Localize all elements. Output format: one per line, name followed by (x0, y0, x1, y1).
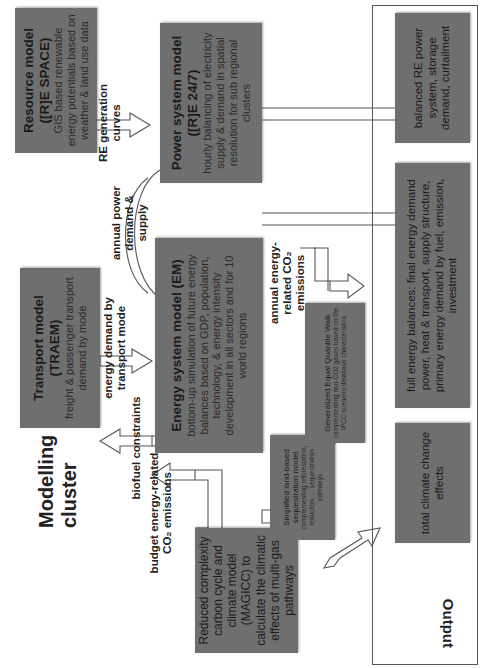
output-energy-balances-box: full energy balances: final energy deman… (395, 163, 470, 408)
magicc-model-box: Reduced complexity carbon cycle and clim… (195, 528, 298, 653)
transport-model-box: Transport model (TRAEM) freight & passen… (20, 268, 100, 428)
label-energy-demand-transport: energy demand by transport mode (102, 283, 128, 413)
modelling-cluster-diagram: Modelling cluster Output Resource model … (0, 0, 481, 668)
arrow-em-to-balances (275, 48, 300, 216)
power-system-model-title: Power system model ([R]E 24/7) (169, 27, 201, 179)
power-system-model-desc: hourly balancing of electricity supply &… (201, 27, 253, 179)
label-annual-power: annual power demand & supply (110, 178, 150, 268)
energy-system-model-box: Energy system model (EM) bottom-up simul… (155, 238, 263, 453)
transport-model-desc: freight & passenger transport demand by … (63, 272, 89, 424)
quantile-walk-model-box: Generalized Equal Quantile Walk compleme… (305, 303, 365, 443)
output-energy-balances-text: full energy balances: final energy deman… (405, 167, 459, 404)
land-sequestration-model-desc: complementing reforestation, reduction, … (300, 439, 323, 536)
arrow-annual-co2 (330, 274, 364, 298)
quantile-walk-model-desc: complementing non-CO2 gases based on the… (332, 307, 347, 439)
land-sequestration-model-box: Simplified land-based sequestration mode… (270, 435, 335, 540)
output-balanced-re-box: balanced RE power system, storage demand… (395, 13, 470, 143)
arrow-biofuel (100, 429, 152, 453)
energy-system-model-title: Energy system model (EM) (169, 259, 185, 432)
output-balanced-re-text: balanced RE power system, storage demand… (412, 17, 453, 139)
quantile-walk-model-title: Generalized Equal Quantile Walk (323, 314, 332, 432)
magicc-model-desc: Reduced complexity carbon cycle and clim… (197, 532, 296, 649)
power-system-model-box: Power system model ([R]E 24/7) hourly ba… (160, 23, 262, 183)
label-re-generation-curves: RE generation curves (97, 68, 123, 178)
label-annual-co2: annual energy-related CO₂ emissions (268, 228, 308, 338)
land-sequestration-model-title: Simplified land-based sequestration mode… (282, 439, 301, 536)
energy-system-model-desc: bottom-up simulation of future energy ba… (185, 242, 250, 449)
output-climate-effects-box: total climate change effects (395, 423, 470, 543)
resource-model-title: Resource model ([R]E SPACE) (21, 12, 53, 149)
label-budget-co2: budget energy-related CO₂ emissions (148, 448, 174, 578)
transport-model-title: Transport model (TRAEM) (31, 272, 63, 424)
cluster-title: Modelling cluster (35, 418, 81, 528)
resource-model-box: Resource model ([R]E SPACE) GIS based re… (15, 8, 97, 153)
output-climate-effects-text: total climate change effects (419, 427, 446, 539)
label-biofuel-constraints: biofuel constraints (130, 383, 143, 513)
resource-model-desc: GIS based renewable energy potentials ba… (52, 12, 91, 149)
output-label: Output (440, 599, 457, 648)
